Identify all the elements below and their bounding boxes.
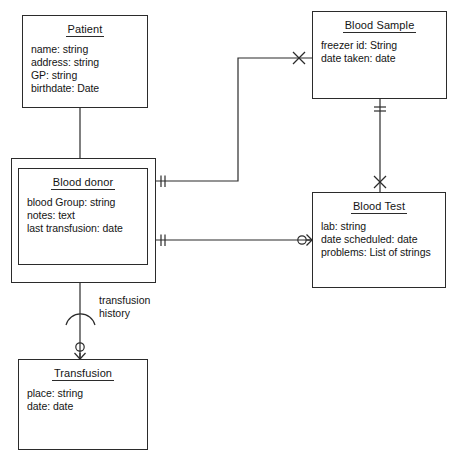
attribute-item: problems: List of strings [321,246,445,259]
attribute-list-patient: name: string address: string GP: string … [23,35,147,95]
attribute-item: freezer id: String [321,39,446,52]
class-title-blood-sample: Blood Sample [313,12,446,31]
association-label-line2: history [99,307,150,320]
class-title-blood-test: Blood Test [313,193,445,212]
edge-blooddonor-bloodsample [156,52,312,187]
uml-diagram-canvas: Patient name: string address: string GP:… [0,0,458,464]
attribute-item: date taken: date [321,52,446,65]
attribute-item: blood Group: string [27,196,147,209]
attribute-list-blood-test: lab: string date scheduled: date problem… [313,212,445,259]
edge-blooddonor-bloodtest [156,235,312,247]
attribute-item: notes: text [27,209,147,222]
attribute-item: lab: string [321,220,445,233]
association-label-transfusion-history: transfusion history [99,294,150,320]
edge-bloodsample-bloodtest [374,99,386,192]
attribute-item: GP: string [31,69,147,82]
attribute-item: last transfusion: date [27,222,147,235]
class-box-blood-test[interactable]: Blood Test lab: string date scheduled: d… [312,192,446,288]
class-title-transfusion: Transfusion [19,360,147,379]
attribute-item: name: string [31,43,147,56]
attribute-list-transfusion: place: string date: date [19,379,147,413]
class-box-blood-sample[interactable]: Blood Sample freezer id: String date tak… [312,11,447,99]
attribute-item: birthdate: Date [31,82,147,95]
attribute-item: address: string [31,56,147,69]
class-title-blood-donor: Blood donor [19,169,147,188]
class-box-blood-donor[interactable]: Blood donor blood Group: string notes: t… [18,168,148,265]
attribute-list-blood-sample: freezer id: String date taken: date [313,31,446,65]
class-box-patient[interactable]: Patient name: string address: string GP:… [22,15,148,108]
class-title-patient: Patient [23,16,147,35]
attribute-list-blood-donor: blood Group: string notes: text last tra… [19,188,147,235]
attribute-item: date: date [27,400,147,413]
attribute-item: place: string [27,387,147,400]
association-label-line1: transfusion [99,294,150,307]
class-box-transfusion[interactable]: Transfusion place: string date: date [18,359,148,450]
attribute-item: date scheduled: date [321,233,445,246]
